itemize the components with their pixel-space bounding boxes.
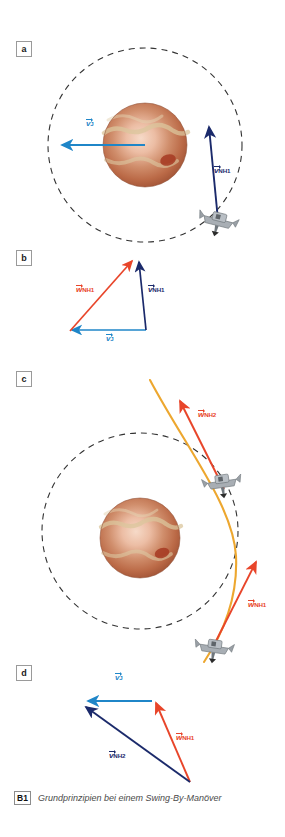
vector-subscript: NH1 xyxy=(82,286,94,293)
vector-arrow-bar xyxy=(86,119,92,120)
figure-graphics xyxy=(0,0,285,837)
vector-arrow-bar xyxy=(115,673,121,674)
vector-arrow-bar xyxy=(176,733,182,734)
label-v-jupiter-b: vJ xyxy=(106,334,114,343)
panel-badge-b: b xyxy=(16,250,32,266)
vector-subscript: NH1 xyxy=(182,734,194,741)
vector-v-nh1-b xyxy=(139,262,146,330)
caption-text: Grundprinzipien bei einem Swing-By-Manöv… xyxy=(38,793,222,803)
figure-caption: B1 Grundprinzipien bei einem Swing-By-Ma… xyxy=(14,791,222,805)
vector-arrow-bar xyxy=(109,751,115,752)
panel-c-graphics xyxy=(42,380,256,666)
panel-d-graphics xyxy=(86,701,190,782)
vector-arrow-bar xyxy=(76,285,82,286)
panel-badge-d: d xyxy=(16,665,32,681)
label-v-nh1-a: vNH1 xyxy=(214,166,230,175)
vector-arrow-bar xyxy=(148,285,154,286)
vector-subscript: NH1 xyxy=(254,601,266,608)
swing-by-figure: a b c d vJ vNH1 wNH1 vNH1 vJ wNH2 wNH1 v… xyxy=(0,0,285,837)
vector-subscript: NH2 xyxy=(204,411,216,418)
label-v-nh1-b: vNH1 xyxy=(148,285,164,294)
label-v-nh2-d: vNH2 xyxy=(109,751,125,760)
vector-w-nh1-b xyxy=(70,261,132,331)
vector-arrow-bar xyxy=(106,334,112,335)
label-w-nh1-c: wNH1 xyxy=(248,600,266,609)
spacecraft-icon-c-entry xyxy=(192,637,234,666)
vector-arrow-bar xyxy=(248,600,254,601)
panel-badge-a: a xyxy=(16,41,32,57)
label-v-jupiter-d: vJ xyxy=(115,673,123,682)
caption-badge: B1 xyxy=(14,791,31,805)
vector-arrow-bar xyxy=(198,410,204,411)
label-w-nh1-d: wNH1 xyxy=(176,733,194,742)
label-w-nh1-b: wNH1 xyxy=(76,285,94,294)
jupiter-planet-c xyxy=(100,498,181,578)
label-w-nh2-c: wNH2 xyxy=(198,410,216,419)
label-v-jupiter-a: vJ xyxy=(86,119,94,128)
panel-badge-c: c xyxy=(16,371,32,387)
vector-arrow-bar xyxy=(214,166,220,167)
panel-a-graphics xyxy=(48,48,242,242)
panel-b-graphics xyxy=(70,261,146,331)
